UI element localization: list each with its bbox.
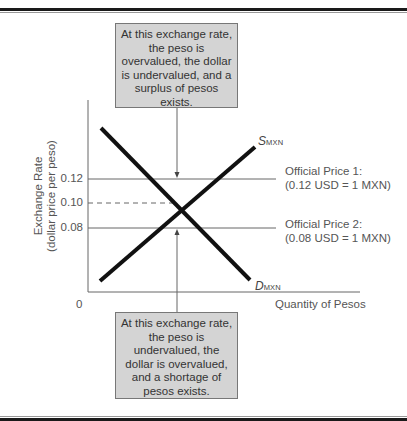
official-price-2-title: Official Price 2: (285, 217, 391, 231)
demand-label-main: D (255, 279, 264, 293)
official-price-1-value: (0.12 USD = 1 MXN) (285, 178, 391, 192)
official-price-1-label: Official Price 1: (0.12 USD = 1 MXN) (285, 164, 391, 192)
arrow-down-icon (175, 172, 180, 178)
undervalued-callout: At this exchange rate, the peso is under… (115, 312, 238, 399)
origin-label: 0 (76, 298, 82, 310)
supply-label-sub: MXN (266, 138, 283, 147)
demand-curve (101, 128, 250, 280)
official-price-2-value: (0.08 USD = 1 MXN) (285, 231, 391, 245)
demand-curve-label: DMXN (255, 279, 281, 293)
demand-label-sub: MXN (264, 283, 281, 292)
official-price-1-title: Official Price 1: (285, 164, 391, 178)
arrow-up-icon (175, 229, 180, 235)
y-tick-0-10: 0.10 (43, 196, 83, 208)
supply-curve-label: SMXN (258, 134, 283, 148)
overvalued-callout: At this exchange rate, the peso is overv… (115, 23, 238, 108)
y-tick-0-12: 0.12 (43, 172, 83, 184)
bottom-border-thin-rule (0, 416, 407, 417)
supply-label-main: S (258, 134, 266, 148)
official-price-2-label: Official Price 2: (0.08 USD = 1 MXN) (285, 217, 391, 245)
x-axis-label: Quantity of Pesos (275, 298, 366, 310)
y-tick-0-08: 0.08 (43, 221, 83, 233)
